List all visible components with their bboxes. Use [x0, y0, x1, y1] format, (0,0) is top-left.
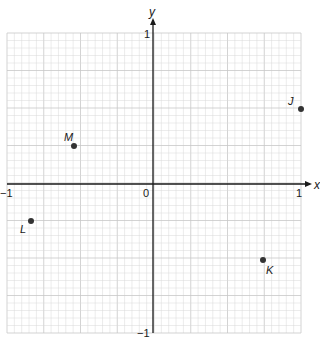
point-marker: [28, 218, 34, 224]
point-marker: [71, 143, 77, 149]
x-axis-label: x: [313, 178, 320, 192]
y-min-label: −1: [137, 327, 150, 339]
point-J: J: [287, 95, 304, 112]
point-marker: [260, 257, 266, 263]
y-max-label: 1: [144, 28, 150, 40]
y-axis-arrow-icon: [150, 18, 156, 25]
x-axis-arrow-icon: [305, 181, 312, 187]
point-marker: [298, 106, 304, 112]
point-label: M: [64, 131, 74, 143]
y-axis-label: y: [148, 5, 156, 19]
point-label: J: [287, 95, 294, 107]
origin-label: 0: [143, 187, 149, 199]
point-label: K: [266, 264, 274, 276]
coordinate-plane: x y −1 1 1 −1 0 J M L K: [0, 0, 320, 345]
x-min-label: −1: [0, 187, 13, 199]
grid: [7, 33, 301, 333]
point-label: L: [20, 223, 26, 235]
x-max-label: 1: [296, 187, 302, 199]
